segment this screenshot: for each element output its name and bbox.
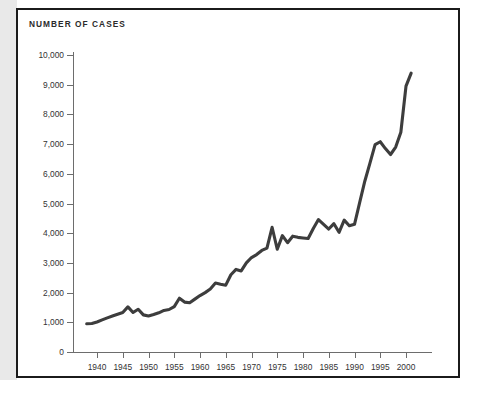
series-layer — [0, 0, 479, 397]
line-series-number-of-cases — [87, 73, 411, 324]
plot-area: 01,0002,0003,0004,0005,0006,0007,0008,00… — [0, 0, 479, 397]
figure-container: NUMBER OF CASES 01,0002,0003,0004,0005,0… — [0, 0, 479, 397]
